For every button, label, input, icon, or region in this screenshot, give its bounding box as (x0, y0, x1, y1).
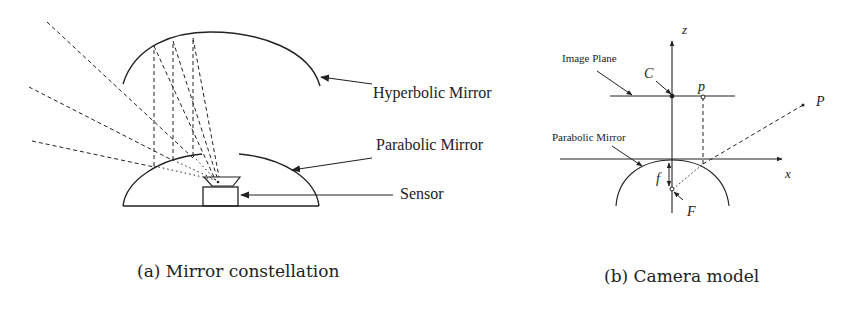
center-label: C (644, 66, 654, 81)
center-point (670, 94, 674, 98)
hyperbolic-mirror-arc (123, 32, 320, 86)
image-plane-label: Image Plane (562, 52, 617, 64)
parabolic-mirror-left-arc (123, 154, 202, 206)
incoming-rays (29, 22, 193, 167)
ray-f-to-P (673, 164, 703, 189)
parabolic-mirror-pointer-b (612, 146, 642, 166)
caption-b: (b) Camera model (604, 266, 759, 286)
parabolic-mirror-label-b: Parabolic Mirror (552, 131, 626, 143)
parabolic-mirror-label: Parabolic Mirror (376, 136, 484, 153)
parabolic-mirror-right-arc (239, 154, 319, 206)
image-plane-pointer (597, 71, 632, 95)
world-point-label: P (815, 94, 825, 109)
vertical-reflected-rays (154, 38, 193, 166)
x-axis-label: x (784, 166, 791, 181)
image-point (701, 95, 705, 99)
focal-length-label: f (656, 171, 662, 186)
z-axis-label: z (681, 22, 687, 37)
sensor-label: Sensor (400, 185, 444, 202)
sensor-box (203, 187, 238, 206)
mirror-constellation-diagram (29, 22, 393, 206)
hyperbolic-mirror-pointer (321, 77, 372, 84)
hyperbolic-mirror-label: Hyperbolic Mirror (373, 84, 492, 102)
ray-to-world-point (703, 105, 803, 164)
caption-a: (a) Mirror constellation (137, 261, 339, 281)
parabolic-mirror-pointer (292, 158, 372, 170)
lens-trapezoid (204, 177, 240, 186)
focus-label: F (686, 204, 696, 219)
camera-model-diagram (560, 41, 805, 213)
focus-point (670, 187, 674, 191)
center-pointer (656, 81, 671, 94)
world-point (802, 104, 805, 107)
figure-canvas: Hyperbolic Mirror Parabolic Mirror Senso… (0, 0, 852, 311)
image-point-label: p (697, 79, 705, 94)
focus-pointer (674, 192, 683, 200)
